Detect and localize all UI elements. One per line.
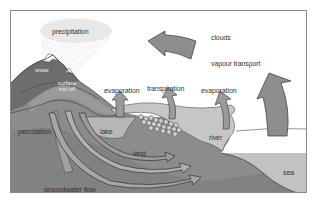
cloud-transport-arrow [148, 31, 196, 59]
percolation-label: percolation [18, 128, 51, 135]
water-cycle-diagram: precipitation clouds vapour transport sn… [10, 10, 307, 193]
vapour-transport-label: vapour transport [211, 60, 260, 67]
diagram-canvas [11, 11, 307, 193]
sea-label: sea [283, 169, 294, 176]
evaporation-river-label: evaporation [201, 87, 236, 94]
evaporation-lake-label: evaporation [104, 87, 139, 94]
groundwater-flow-label: groundwater flow [44, 186, 96, 193]
surface-run-off-label: surface run off [56, 80, 78, 92]
sea-evaporation-arrow [257, 73, 291, 136]
clouds-label: clouds [211, 34, 231, 41]
river-label: river [209, 134, 222, 141]
transpiration-label: transpiration [147, 85, 184, 92]
snow-label: snow [35, 67, 49, 73]
lake-label: lake [100, 128, 112, 135]
land-label: land [133, 150, 146, 157]
precipitation-label: precipitation [52, 28, 88, 35]
